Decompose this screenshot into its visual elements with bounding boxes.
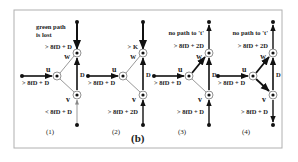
node-w <box>269 49 277 57</box>
node-v <box>139 91 147 99</box>
node-u <box>53 72 61 80</box>
dot-bottom <box>271 123 275 127</box>
dot-top <box>207 20 211 24</box>
left-label: > 8fD + D <box>218 79 245 86</box>
node-w <box>205 49 213 57</box>
dot-left <box>152 74 156 78</box>
node-v <box>205 91 213 99</box>
v-label: v <box>66 95 70 104</box>
upper-label: > K <box>128 43 138 50</box>
v-label: v <box>132 95 136 104</box>
u-label: u <box>178 65 183 74</box>
w-label: w <box>64 52 70 61</box>
left-label: > 8fD + D <box>22 79 49 86</box>
left-label: > 8fD + D <box>154 79 181 86</box>
dot-left <box>86 74 90 78</box>
edge-d-label: D <box>146 71 151 78</box>
u-label: u <box>242 65 247 74</box>
lower-label: > 8fD + D <box>241 108 268 115</box>
dot-left <box>20 74 24 78</box>
note-line1: no path to 't' <box>168 29 204 36</box>
caption: (2) <box>112 128 121 136</box>
caption: (4) <box>242 128 251 136</box>
v-label: v <box>262 95 266 104</box>
node-w <box>73 49 81 57</box>
upper-label: > 8fD + 2D <box>174 42 205 49</box>
node-u <box>185 72 193 80</box>
upper-label: > 8fD + D <box>45 43 72 50</box>
dot-top <box>271 20 275 24</box>
dot-bottom <box>75 123 79 127</box>
upper-label: > 8fD + 2D <box>238 42 269 49</box>
caption: (3) <box>178 128 187 136</box>
lower-label: < 8fD + D <box>45 108 72 115</box>
edge-d-label: D <box>276 71 281 78</box>
figure-label: (b) <box>131 132 145 145</box>
note-line1: no path to 't' <box>232 29 268 36</box>
w-label: w <box>260 52 266 61</box>
node-w <box>139 49 147 57</box>
lower-label: > 8fD + D <box>177 108 204 115</box>
dot-bottom <box>141 123 145 127</box>
v-label: v <box>198 95 202 104</box>
left-label: > 8fD + D <box>88 79 115 86</box>
u-label: u <box>112 65 117 74</box>
dot-left <box>216 74 220 78</box>
edge-d-label: D <box>80 71 85 78</box>
node-v <box>269 91 277 99</box>
dot-bottom <box>207 123 211 127</box>
dot-top <box>141 20 145 24</box>
node-u <box>119 72 127 80</box>
lower-label: > 8fD + 2D <box>108 108 139 115</box>
node-u <box>249 72 257 80</box>
diagram-canvas: green path is lost > 8fD + D w u > 8fD +… <box>0 0 298 162</box>
u-label: u <box>46 65 51 74</box>
dot-top <box>75 20 79 24</box>
node-v <box>73 91 81 99</box>
note-line1: green path <box>36 23 66 30</box>
note-line2: is lost <box>36 31 53 38</box>
w-label: w <box>130 52 136 61</box>
w-label: w <box>196 52 202 61</box>
caption: (1) <box>46 128 55 136</box>
